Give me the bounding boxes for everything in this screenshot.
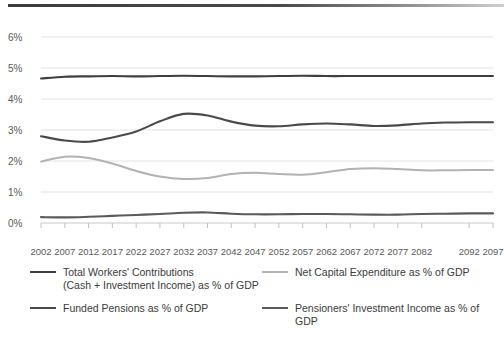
x-axis-tick-label: 2027 bbox=[149, 246, 170, 257]
y-axis-tick-label: 0% bbox=[8, 218, 22, 229]
legend-color-swatch bbox=[262, 271, 288, 273]
x-axis-tick-label: 2047 bbox=[245, 246, 266, 257]
x-axis-tick-label: 2057 bbox=[292, 246, 313, 257]
legend-label: Pensioners' Investment Income as % of GD… bbox=[295, 302, 502, 328]
legend-label: Total Workers' Contributions(Cash + Inve… bbox=[63, 266, 259, 292]
y-axis-tick-label: 4% bbox=[8, 94, 22, 105]
data-series-group bbox=[41, 76, 493, 218]
legend-color-swatch bbox=[262, 307, 288, 309]
legend-item[interactable]: Net Capital Expenditure as % of GDP bbox=[262, 266, 502, 292]
legend-item[interactable]: Funded Pensions as % of GDP bbox=[30, 302, 262, 328]
y-axis-tick-label: 3% bbox=[8, 125, 22, 136]
x-axis-tick-label: 2062 bbox=[316, 246, 337, 257]
x-axis-tick-label: 2067 bbox=[340, 246, 361, 257]
series-line bbox=[41, 76, 493, 79]
x-axis-tick-label: 2037 bbox=[197, 246, 218, 257]
x-axis-tick-label: 2052 bbox=[268, 246, 289, 257]
legend-label: Funded Pensions as % of GDP bbox=[63, 302, 208, 315]
legend-color-swatch bbox=[30, 271, 56, 273]
x-axis-tick-label: 2072 bbox=[363, 246, 384, 257]
y-axis-tick-label: 2% bbox=[8, 156, 22, 167]
legend-item[interactable]: Pensioners' Investment Income as % of GD… bbox=[262, 302, 502, 328]
legend-label-line2: (Cash + Investment Income) as % of GDP bbox=[63, 279, 259, 292]
y-axis-tick-label: 6% bbox=[8, 32, 22, 43]
series-line bbox=[41, 156, 493, 179]
x-axis-tick-label: 2007 bbox=[54, 246, 75, 257]
x-axis-ticks bbox=[41, 223, 493, 228]
x-axis-tick-label: 2077 bbox=[387, 246, 408, 257]
x-axis-tick-label: 2092 bbox=[459, 246, 480, 257]
gridlines bbox=[41, 37, 493, 223]
x-axis-tick-label: 2022 bbox=[126, 246, 147, 257]
x-axis-tick-label: 2097 bbox=[482, 246, 503, 257]
chart-legend: Total Workers' Contributions(Cash + Inve… bbox=[30, 266, 500, 328]
legend-color-swatch bbox=[30, 307, 56, 309]
x-axis-tick-label: 2017 bbox=[102, 246, 123, 257]
series-line bbox=[41, 212, 493, 217]
x-axis-tick-label: 2042 bbox=[221, 246, 242, 257]
x-axis-tick-label: 2032 bbox=[173, 246, 194, 257]
x-axis-tick-label: 2012 bbox=[78, 246, 99, 257]
x-axis-tick-label: 2082 bbox=[411, 246, 432, 257]
y-axis-tick-label: 5% bbox=[8, 63, 22, 74]
y-axis-tick-label: 1% bbox=[8, 187, 22, 198]
legend-item[interactable]: Total Workers' Contributions(Cash + Inve… bbox=[30, 266, 262, 292]
x-axis-tick-label: 2002 bbox=[30, 246, 51, 257]
series-line bbox=[41, 114, 493, 142]
legend-label: Net Capital Expenditure as % of GDP bbox=[295, 266, 470, 279]
